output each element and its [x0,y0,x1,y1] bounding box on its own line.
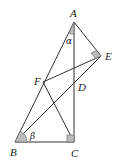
label-beta: β [29,131,35,141]
label-C: C [71,147,79,159]
segment-BE [15,56,101,142]
angle-beta-mark [15,131,27,142]
label-B: B [10,146,17,158]
segments [15,22,101,142]
label-alpha: α [66,36,72,46]
label-F: F [33,75,41,87]
segment-FE [43,56,101,82]
label-D: D [77,81,86,93]
label-A: A [69,7,77,19]
label-E: E [104,50,112,62]
segment-FC [43,82,74,142]
geometry-diagram: A E F D B C α β [0,0,120,166]
angle-alpha-mark [69,22,74,34]
right-angle-C-mark [67,135,74,142]
